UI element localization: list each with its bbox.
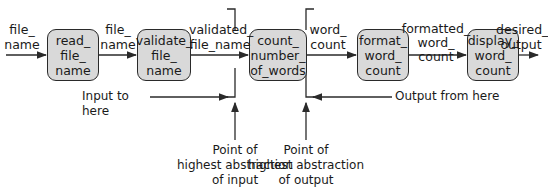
process-read-file-name: read_ file_ name [47,29,99,81]
edge-label-formatted-word-count: formatted_ word_ count [400,22,472,64]
annotation-input-to-here: Input to here [82,89,154,119]
annotation-output-from-here: Output from here [395,89,505,104]
edge-label-validated-file-name: validated_ file_name [189,22,251,52]
process-validate-file-name: validate_ file_ name [137,29,191,81]
box-label: count_ number_ of_words [250,33,306,78]
process-count-number-of-words: count_ number_ of_words [249,29,307,81]
edge-label-file-name-in: file_ name [2,22,42,52]
box-label: read_ file_ name [55,33,90,78]
box-label: validate_ file_ name [136,33,192,78]
edge-label-word-count: word_ count [306,22,350,52]
edge-label-file-name: file_ name [98,22,138,52]
annotation-highest-abstraction-output: Point of highest abstraction of output [241,143,371,188]
edge-label-desired-output: desired_ output [496,22,546,52]
